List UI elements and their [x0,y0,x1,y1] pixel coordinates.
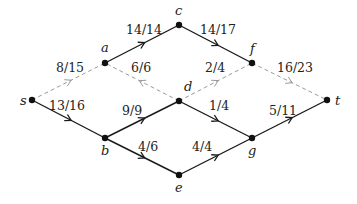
edge-label-s-b: 13/16 [49,98,85,113]
node-e [176,172,182,178]
edge-label-c-f: 14/17 [200,22,236,37]
node-label-c: c [175,3,183,18]
edge-label-d-f: 2/4 [205,60,225,75]
edge-label-d-g: 1/4 [209,98,229,113]
node-label-a: a [101,40,109,55]
edge-label-s-a: 8/15 [56,60,84,75]
node-label-b: b [101,143,109,158]
node-s [29,97,35,103]
flow-network-diagram: 8/1513/1614/146/614/172/416/239/94/61/44… [0,0,357,204]
node-label-e: e [175,180,183,195]
node-label-t: t [335,93,341,108]
node-t [324,97,330,103]
node-b [102,135,108,141]
node-f [249,60,255,66]
edge-label-g-t: 5/11 [269,103,297,118]
edge-label-b-e: 4/6 [138,139,158,154]
node-label-g: g [248,143,256,158]
node-c [176,22,182,28]
node-label-d: d [184,79,192,94]
node-a [102,60,108,66]
edge-label-f-t: 16/23 [277,60,313,75]
edge-label-d-a: 6/6 [131,60,151,75]
edge-label-e-g: 4/4 [192,139,212,154]
node-d [176,98,182,104]
edge-label-a-c: 14/14 [126,22,162,37]
node-label-s: s [20,93,27,108]
node-g [249,135,255,141]
edge-e-g [179,138,252,175]
node-label-f: f [249,41,257,56]
edge-label-b-d: 9/9 [122,103,142,118]
